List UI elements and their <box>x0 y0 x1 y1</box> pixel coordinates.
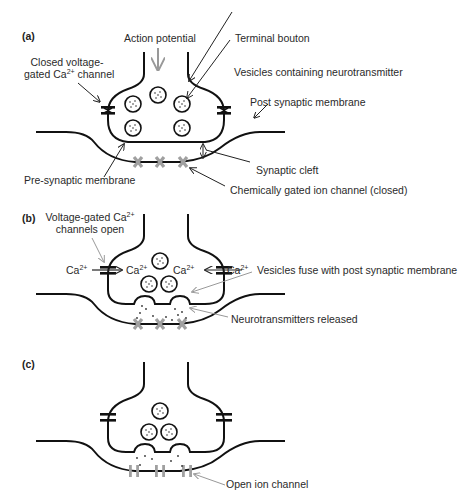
ca-label-outside-left: Ca2+ <box>66 264 87 276</box>
vesicle <box>152 403 168 419</box>
vesicle <box>125 120 141 136</box>
vesicle <box>141 424 157 440</box>
panel-c <box>36 362 285 485</box>
vesicle <box>150 87 166 103</box>
pre-synaptic-membrane-label: Pre-synaptic membrane <box>24 174 135 186</box>
post-synaptic-membrane <box>36 132 285 162</box>
panel-c-tag: (c) <box>22 358 35 370</box>
chemically-gated-channel-label: Chemically gated ion channel (closed) <box>230 184 407 196</box>
action-potential-label: Action potential <box>124 32 196 44</box>
panel-b-tag: (b) <box>22 212 35 224</box>
post-synaptic-membrane-c <box>36 441 285 471</box>
ca-label-outside-right: Ca2+ <box>227 264 248 276</box>
neurotransmitter-dots-c <box>136 455 183 467</box>
ca-label-inside-right: Ca2+ <box>173 264 194 276</box>
open-channels-label: Voltage-gated Ca2+ channels open <box>44 211 136 235</box>
synaptic-cleft-label: Synaptic cleft <box>256 164 318 176</box>
vesicle <box>125 96 141 112</box>
closed-voltage-channel-left <box>101 106 115 115</box>
neurotransmitters-released-label: Neurotransmitters released <box>231 313 358 325</box>
terminal-bouton-label: Terminal bouton <box>235 32 310 44</box>
closed-voltage-channel-right <box>217 106 231 115</box>
ca-label-inside-left: Ca2+ <box>126 264 147 276</box>
post-synaptic-membrane-label: Post synaptic membrane <box>250 96 366 108</box>
closed-channel-label: Closed voltage- gated Ca2+ channel <box>24 56 110 80</box>
vesicles-fuse-label: Vesicles fuse with post synaptic membran… <box>257 264 457 276</box>
vesicle <box>174 96 190 112</box>
open-ion-channel-label: Open ion channel <box>226 478 308 490</box>
vesicle <box>141 276 157 292</box>
vesicle <box>174 120 190 136</box>
panel-a-tag: (a) <box>22 30 35 42</box>
vesicle <box>161 424 177 440</box>
vesicles-label: Vesicles containing neurotransmitter <box>234 66 403 78</box>
vesicle <box>161 276 177 292</box>
vesicle <box>152 253 168 269</box>
